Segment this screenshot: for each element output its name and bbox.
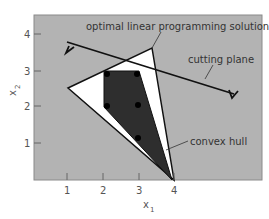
integer-point [104,71,110,77]
svg-text:x: x [143,199,149,210]
y-tick-2: 2 [24,101,30,112]
y-axis-label: x 2 [7,85,22,96]
cutting-plane-label: cutting plane [188,54,254,65]
y-tick-4: 4 [24,29,30,40]
x-tick-2: 2 [100,185,106,196]
convex-hull-label: convex hull [190,136,247,147]
x-axis-label: x 1 [143,199,154,214]
x-tick-1: 1 [64,185,70,196]
svg-text:1: 1 [150,206,154,214]
integer-programming-diagram: optimal linear programming solution cutt… [0,0,269,219]
integer-point [135,102,141,108]
optimal-solution-label: optimal linear programming solution [86,21,269,32]
svg-text:x: x [7,90,18,96]
svg-text:2: 2 [14,85,22,89]
x-tick-3: 3 [136,185,142,196]
y-tick-3: 3 [24,66,30,77]
x-tick-4: 4 [171,185,177,196]
integer-point [134,71,140,77]
integer-point [104,103,110,109]
integer-point [135,135,141,141]
y-tick-1: 1 [24,138,30,149]
